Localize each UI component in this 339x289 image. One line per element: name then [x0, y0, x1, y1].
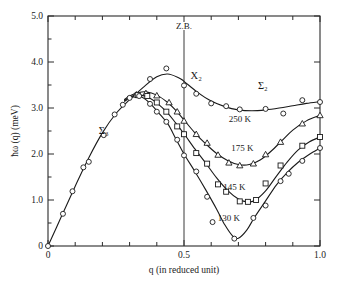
- x-tick-label: 0: [46, 250, 51, 260]
- x-tick-label: 0.5: [178, 250, 190, 260]
- y-tick-label: 0: [38, 241, 43, 251]
- series-label-130k: 130 K: [218, 213, 241, 223]
- data-point-145-k: [245, 199, 250, 204]
- data-point-250-k: [224, 104, 229, 109]
- data-point-145-k: [318, 134, 323, 139]
- chart-canvas: 00.51.001.02.03.04.05.0q (in reduced uni…: [0, 0, 339, 289]
- data-point-130-k: [164, 119, 169, 124]
- data-point-250-k: [127, 95, 132, 100]
- data-point-130-k: [263, 203, 268, 208]
- y-tick-label: 3.0: [31, 103, 43, 113]
- data-point-250-k: [46, 244, 51, 249]
- data-point-145-k: [175, 124, 180, 129]
- data-point-250-k: [281, 111, 286, 116]
- data-point-250-k: [237, 107, 242, 112]
- data-point-145-k: [182, 132, 187, 137]
- data-point-250-k: [120, 102, 125, 107]
- data-point-250-k: [112, 112, 117, 117]
- data-point-145-k: [154, 100, 159, 105]
- series-label-175k: 175 K: [231, 143, 254, 153]
- data-point-130-k: [137, 94, 142, 99]
- data-point-250-k: [81, 165, 86, 170]
- sigma2-branch-label: Σ₂: [258, 80, 268, 91]
- data-point-130-k: [300, 158, 305, 163]
- data-point-145-k: [254, 198, 259, 203]
- data-point-130-k: [182, 153, 187, 158]
- data-point-250-k: [148, 77, 153, 82]
- data-point-145-k: [164, 109, 169, 114]
- zone-boundary-label: Z.B.: [176, 21, 192, 31]
- data-point-175-k: [317, 112, 323, 117]
- data-point-145-k: [145, 94, 150, 99]
- data-point-250-k: [86, 159, 91, 164]
- data-point-130-k: [210, 220, 215, 225]
- data-point-250-k: [300, 98, 305, 103]
- data-point-130-k: [251, 215, 256, 220]
- data-point-145-k: [278, 163, 283, 168]
- data-point-130-k: [286, 171, 291, 176]
- data-point-145-k: [205, 161, 210, 166]
- phonon-dispersion-figure: 00.51.001.02.03.04.05.0q (in reduced uni…: [0, 0, 339, 289]
- y-tick-label: 1.0: [31, 195, 43, 205]
- series-label-250k: 250 K: [229, 114, 252, 124]
- data-point-145-k: [300, 143, 305, 148]
- data-point-130-k: [205, 194, 210, 199]
- series-curve-175-k: [124, 92, 320, 165]
- data-point-175-k: [181, 118, 187, 123]
- series-label-145k: 145 K: [223, 182, 246, 192]
- data-point-145-k: [237, 199, 242, 204]
- y-tick-label: 5.0: [31, 11, 43, 21]
- series-curve-145-k: [124, 95, 320, 202]
- x2-point-label: X₂: [191, 70, 203, 81]
- data-point-250-k: [263, 106, 268, 111]
- y-axis-title: ħω (q) (meV): [10, 105, 21, 157]
- data-point-250-k: [70, 189, 75, 194]
- x-axis-title: q (in reduced unit): [149, 265, 219, 276]
- y-tick-label: 2.0: [31, 149, 43, 159]
- data-point-250-k: [182, 83, 187, 88]
- data-point-130-k: [148, 101, 153, 106]
- data-point-250-k: [164, 66, 169, 71]
- data-point-130-k: [194, 169, 199, 174]
- y-tick-label: 4.0: [31, 57, 43, 67]
- data-point-175-k: [154, 92, 160, 97]
- data-point-175-k: [250, 161, 256, 166]
- x-tick-label: 1.0: [314, 250, 326, 260]
- data-point-130-k: [318, 146, 323, 151]
- data-point-130-k: [175, 137, 180, 142]
- data-point-250-k: [194, 91, 199, 96]
- data-point-145-k: [263, 181, 268, 186]
- data-point-145-k: [194, 151, 199, 156]
- data-point-145-k: [216, 182, 221, 187]
- data-point-130-k: [154, 109, 159, 114]
- data-point-250-k: [60, 211, 65, 216]
- sigma3-branch-label: Σ₃: [99, 125, 109, 136]
- data-point-130-k: [278, 179, 283, 184]
- data-point-250-k: [318, 100, 323, 105]
- data-point-130-k: [232, 236, 237, 241]
- data-point-250-k: [209, 101, 214, 106]
